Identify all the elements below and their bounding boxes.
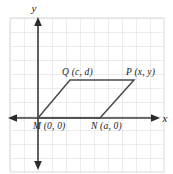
y-axis-label: y bbox=[31, 2, 37, 14]
geometry-figure: y x M (0, 0) N (a, 0) P (x, y) Q (c, d) bbox=[0, 0, 173, 174]
x-axis-label: x bbox=[162, 112, 168, 124]
vertex-label-N: N (a, 0) bbox=[90, 121, 122, 132]
coordinate-plane-svg: y x M (0, 0) N (a, 0) P (x, y) Q (c, d) bbox=[0, 0, 173, 174]
grid-background bbox=[10, 18, 164, 172]
vertex-label-M: M (0, 0) bbox=[32, 121, 65, 132]
vertex-label-P: P (x, y) bbox=[125, 67, 155, 78]
vertex-label-Q: Q (c, d) bbox=[62, 67, 93, 78]
